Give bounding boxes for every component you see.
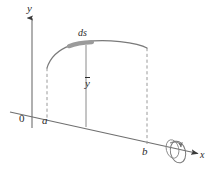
left-bound-label-a: a — [42, 115, 48, 126]
ds-arc-element-label: ds — [78, 28, 87, 38]
x-axis — [10, 112, 198, 154]
y-axis-label: y — [27, 3, 32, 14]
right-bound-label-b: b — [142, 146, 148, 157]
x-axis-line — [10, 112, 198, 154]
overbar-decoration — [85, 77, 90, 78]
rotation-ellipse-outer — [168, 140, 188, 165]
diagram-svg — [0, 0, 217, 181]
ybar-letter: y — [85, 77, 90, 89]
figure-canvas: y ds y 0 a b x — [0, 0, 217, 181]
ybar-centroid-label: y — [85, 78, 90, 89]
origin-label: 0 — [19, 113, 25, 124]
thick-arc-element-ds — [69, 42, 92, 46]
arched-plane-curve — [47, 41, 147, 68]
x-axis-label: x — [200, 150, 204, 160]
rotation-about-x-axis-symbol — [164, 138, 188, 164]
